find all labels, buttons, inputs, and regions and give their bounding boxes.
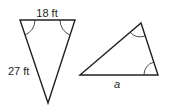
top-side-label: 18 ft (36, 7, 57, 19)
left-side-label: 27 ft (8, 65, 29, 77)
right-triangle-angle-mark-bottom (144, 62, 154, 75)
left-triangle-angle-mark-left (25, 20, 35, 35)
left-triangle: 18 ft 27 ft (8, 7, 75, 103)
left-triangle-outline (20, 20, 75, 103)
left-triangle-angle-mark-right (60, 20, 70, 35)
bottom-side-label: a (114, 78, 120, 90)
right-triangle-angle-mark-top (130, 32, 145, 37)
right-triangle: a (80, 23, 158, 90)
similar-triangles-diagram: 18 ft 27 ft a (0, 0, 170, 111)
